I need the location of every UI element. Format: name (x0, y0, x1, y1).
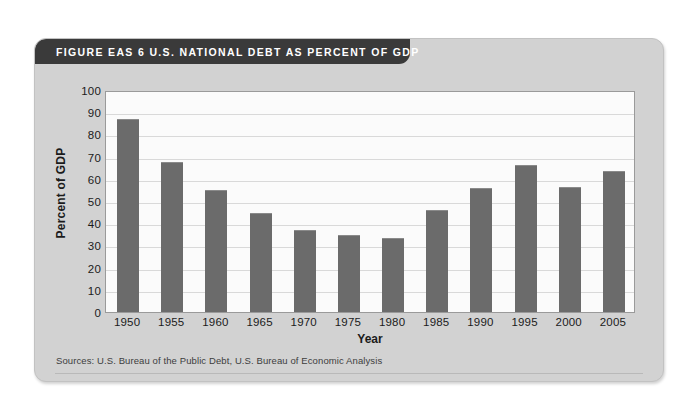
bar (117, 119, 139, 312)
chart-area: Percent of GDP 0102030405060708090100 19… (35, 64, 663, 346)
bars-layer (106, 92, 634, 312)
bar (294, 230, 316, 312)
bar (205, 190, 227, 312)
y-axis-tick-labels: 0102030405060708090100 (35, 91, 101, 313)
bar (515, 165, 537, 312)
y-axis-tick-label: 30 (39, 240, 101, 252)
x-axis-tick-label: 1950 (105, 316, 149, 328)
x-axis-tick-label: 1955 (149, 316, 193, 328)
y-axis-tick-label: 80 (39, 129, 101, 141)
x-axis-tick-label: 1980 (370, 316, 414, 328)
x-axis-tick-label: 1995 (503, 316, 547, 328)
bar (603, 171, 625, 312)
bar (470, 188, 492, 312)
plot-area (105, 91, 635, 313)
x-axis-tick-labels: 1950195519601965197019751980198519901995… (105, 316, 635, 332)
y-axis-tick-label: 40 (39, 218, 101, 230)
y-axis-tick-label: 0 (39, 307, 101, 319)
y-axis-tick-label: 20 (39, 263, 101, 275)
source-divider (55, 373, 643, 374)
x-axis-tick-label: 2000 (547, 316, 591, 328)
y-axis-tick-label: 100 (39, 85, 101, 97)
y-axis-tick-label: 10 (39, 285, 101, 297)
x-axis-tick-label: 1990 (458, 316, 502, 328)
x-axis-tick-label: 1985 (414, 316, 458, 328)
bar (559, 187, 581, 312)
figure-card: FIGURE EAS 6 U.S. NATIONAL DEBT AS PERCE… (34, 38, 664, 382)
y-axis-tick-label: 70 (39, 152, 101, 164)
page-title: FIGURE EAS 6 U.S. NATIONAL DEBT AS PERCE… (56, 46, 419, 58)
x-axis-title: Year (105, 332, 635, 346)
x-axis-tick-label: 1960 (193, 316, 237, 328)
y-axis-tick-label: 90 (39, 107, 101, 119)
x-axis-tick-label: 1965 (238, 316, 282, 328)
source-note: Sources: U.S. Bureau of the Public Debt,… (56, 355, 382, 366)
bar (426, 210, 448, 312)
x-axis-tick-label: 2005 (591, 316, 635, 328)
y-axis-tick-label: 60 (39, 174, 101, 186)
bar (161, 162, 183, 312)
bar (250, 213, 272, 312)
x-axis-tick-label: 1970 (282, 316, 326, 328)
bar (382, 238, 404, 312)
y-axis-tick-label: 50 (39, 196, 101, 208)
figure-title-bar: FIGURE EAS 6 U.S. NATIONAL DEBT AS PERCE… (35, 39, 410, 64)
x-axis-tick-label: 1975 (326, 316, 370, 328)
bar (338, 235, 360, 312)
